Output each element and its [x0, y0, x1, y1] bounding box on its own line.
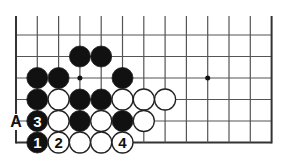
- white-stone: [48, 89, 69, 110]
- move-number-label: 4: [118, 134, 127, 151]
- black-stone: [27, 89, 48, 110]
- star-point-icon: [77, 76, 82, 81]
- black-stone: [112, 68, 133, 89]
- black-stone: [69, 46, 90, 67]
- white-stone: [48, 111, 69, 132]
- move-number-label: 2: [54, 134, 62, 151]
- black-stone: [69, 111, 90, 132]
- point-letter-label: A: [10, 113, 22, 130]
- go-board-diagram: 3124 A: [0, 0, 285, 164]
- white-stone: [112, 89, 133, 110]
- black-stone: [91, 46, 112, 67]
- move-number-label: 3: [33, 113, 41, 130]
- white-stone: [155, 89, 176, 110]
- white-stone: [133, 89, 154, 110]
- black-stone: [112, 111, 133, 132]
- star-point-icon: [205, 76, 210, 81]
- stones: 3124: [27, 46, 176, 153]
- black-stone: [27, 68, 48, 89]
- white-stone: [133, 111, 154, 132]
- point-labels: A: [10, 113, 22, 130]
- white-stone: [91, 111, 112, 132]
- black-stone: [69, 89, 90, 110]
- white-stone: [91, 132, 112, 153]
- black-stone: [91, 89, 112, 110]
- move-number-label: 1: [33, 134, 41, 151]
- black-stone: [48, 68, 69, 89]
- white-stone: [69, 132, 90, 153]
